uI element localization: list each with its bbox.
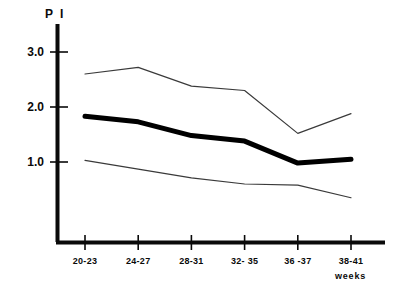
x-tick-label: 38-41: [339, 257, 364, 266]
series-line-median: [85, 116, 351, 163]
chart-plot-area: [0, 0, 394, 292]
x-tick-label: 24-27: [126, 257, 151, 266]
data-series-group: [85, 67, 351, 197]
series-line-lower: [85, 160, 351, 197]
y-tick-label: 2.0: [12, 101, 44, 113]
axes-group: [56, 24, 385, 243]
x-tick-label: 28-31: [179, 257, 204, 266]
x-tick-label: 32- 35: [231, 257, 258, 266]
y-tick-label: 3.0: [12, 46, 44, 58]
chart-container: P I 3.02.01.0 20-2324-2728-3132- 3536 -3…: [0, 0, 394, 292]
x-axis-unit-label: weeks: [335, 272, 366, 281]
y-axis-title: P I: [45, 8, 65, 20]
y-tick-label: 1.0: [12, 156, 44, 168]
x-tick-label: 20-23: [73, 257, 98, 266]
x-tick-label: 36 -37: [284, 257, 311, 266]
series-line-upper: [85, 67, 351, 133]
